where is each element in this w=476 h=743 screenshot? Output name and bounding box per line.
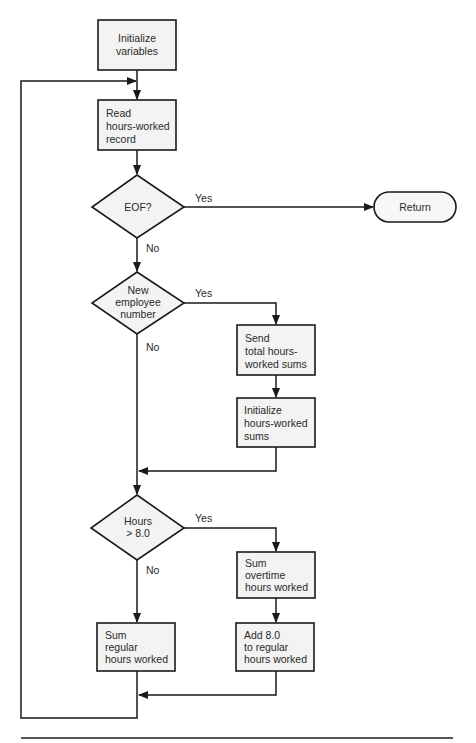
node-return-terminal: Return: [374, 192, 456, 222]
node-text: Add 8.0: [244, 629, 280, 641]
node-text: Sum: [105, 629, 127, 641]
node-text: hours-worked: [106, 120, 170, 132]
node-text: Sum: [245, 557, 267, 569]
node-text: > 8.0: [126, 527, 150, 539]
edge-hours-yes: [184, 528, 276, 551]
node-text: Return: [399, 201, 431, 213]
node-initialize-variables: Initialize variables: [98, 20, 176, 70]
node-text: regular: [105, 641, 138, 653]
node-hours-decision: Hours > 8.0: [91, 495, 184, 560]
edge-add8-to-merge: [139, 671, 276, 695]
node-send-totals: Send total hours- worked sums: [237, 325, 315, 375]
flowchart: Yes No Yes No Yes No Initialize variable…: [0, 0, 476, 743]
node-text: Send: [245, 332, 270, 344]
node-text: EOF?: [124, 201, 152, 213]
node-text: hours worked: [245, 581, 308, 593]
node-initialize-sums: Initialize hours-worked sums: [237, 398, 315, 447]
node-text: record: [106, 133, 136, 145]
node-text: Initialize: [244, 404, 282, 416]
node-text: Read: [106, 107, 131, 119]
node-text: total hours-: [245, 345, 298, 357]
node-text: hours worked: [244, 653, 307, 665]
node-text: to regular: [244, 641, 289, 653]
edge-init-sums-to-merge: [139, 447, 276, 471]
edge-label-eof-yes: Yes: [195, 192, 212, 204]
node-sum-regular: Sum regular hours worked: [97, 623, 175, 671]
edge-new-emp-yes: [184, 303, 276, 324]
node-text: Hours: [124, 515, 152, 527]
edge-label-hours-yes: Yes: [195, 512, 212, 524]
edges: [21, 70, 373, 718]
edge-label-hours-no: No: [146, 564, 160, 576]
node-read-record: Read hours-worked record: [98, 100, 176, 150]
node-eof-decision: EOF?: [92, 175, 184, 238]
node-text: Initialize: [118, 32, 156, 44]
node-text: number: [120, 308, 156, 320]
node-new-employee-decision: New employee number: [92, 272, 184, 334]
node-text: hours-worked: [244, 417, 308, 429]
node-text: variables: [116, 45, 158, 57]
edge-label-new-emp-no: No: [146, 341, 160, 353]
edge-label-eof-no: No: [146, 242, 160, 254]
node-add-eight: Add 8.0 to regular hours worked: [236, 623, 314, 671]
node-text: New: [127, 284, 148, 296]
node-text: worked sums: [244, 358, 307, 370]
node-text: overtime: [245, 569, 285, 581]
node-sum-overtime: Sum overtime hours worked: [237, 552, 315, 598]
edge-label-new-emp-yes: Yes: [195, 287, 212, 299]
node-text: hours worked: [105, 653, 168, 665]
node-text: sums: [244, 430, 269, 442]
node-text: employee: [115, 296, 161, 308]
